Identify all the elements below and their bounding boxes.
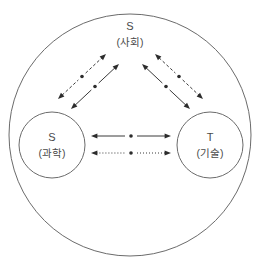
connector-midpoint-dot [177, 75, 181, 79]
node-sublabel-technology: (기술) [197, 147, 224, 159]
arrowhead-icon [91, 134, 97, 139]
node-label-technology: T [207, 131, 214, 143]
connector-segment [99, 68, 115, 83]
diagram-container: S(사회)S(과학)T(기술) [0, 0, 260, 270]
connector-midpoint-dot [80, 75, 84, 79]
arrowhead-icon [100, 54, 106, 60]
connector-midpoint-dot [129, 151, 133, 155]
connector-segment [170, 90, 186, 105]
connector-midpoint-dot [164, 85, 168, 89]
node-society: S(사회) [117, 20, 144, 48]
connector-segment [62, 80, 78, 95]
node-science: S(과학) [19, 112, 85, 178]
connector-segment [159, 58, 175, 73]
arrowhead-icon [165, 134, 171, 139]
connector-midpoint-dot [129, 134, 133, 138]
connector-science-to-society-solid [71, 64, 119, 109]
node-technology: T(기술) [177, 112, 243, 178]
sts-relationship-diagram: S(사회)S(과학)T(기술) [0, 0, 260, 270]
connector-segment [146, 68, 162, 83]
arrowhead-icon [91, 151, 97, 156]
node-circle-science [19, 112, 85, 178]
connector-layer [58, 54, 203, 156]
node-label-society: S [126, 20, 133, 32]
connector-society-to-technology-dashed [155, 54, 203, 99]
connector-science-technology-dotted [91, 151, 171, 156]
connector-segment [86, 58, 102, 73]
connector-segment [75, 90, 91, 105]
connector-segment [183, 80, 199, 95]
arrowhead-icon [165, 151, 171, 156]
node-sublabel-society: (사회) [117, 36, 144, 48]
connector-society-to-technology-solid [142, 64, 190, 109]
arrowhead-icon [197, 93, 203, 99]
connector-midpoint-dot [93, 85, 97, 89]
node-label-science: S [48, 131, 55, 143]
connector-science-to-society-dashed [58, 54, 106, 99]
connector-science-technology-solid [91, 134, 171, 139]
node-circle-technology [177, 112, 243, 178]
node-sublabel-science: (과학) [39, 147, 66, 159]
